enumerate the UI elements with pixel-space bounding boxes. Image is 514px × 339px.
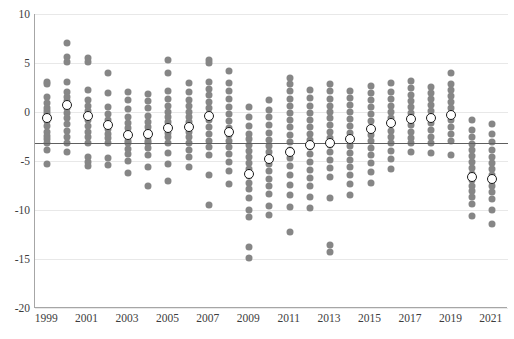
data-point	[286, 204, 293, 211]
data-point	[185, 89, 192, 96]
data-point	[165, 177, 172, 184]
mean-marker	[345, 134, 355, 144]
data-point	[306, 158, 313, 165]
data-point	[286, 131, 293, 138]
data-point	[387, 165, 394, 172]
data-point	[488, 120, 495, 127]
y-axis-tick-label: -10	[0, 204, 30, 216]
data-point	[205, 130, 212, 137]
data-point	[145, 152, 152, 159]
data-point	[185, 79, 192, 86]
y-axis-tick-label: -5	[0, 155, 30, 167]
data-point	[448, 69, 455, 76]
data-point	[387, 79, 394, 86]
data-point	[286, 171, 293, 178]
x-axis-tick-label: 2007	[196, 312, 219, 324]
data-point	[246, 244, 253, 251]
data-point	[124, 89, 131, 96]
data-point	[226, 88, 233, 95]
mean-marker	[123, 130, 133, 140]
x-axis-tick-label: 2015	[358, 312, 381, 324]
data-point	[266, 211, 273, 218]
data-point	[246, 195, 253, 202]
data-point	[145, 163, 152, 170]
data-point	[488, 220, 495, 227]
mean-marker	[406, 114, 416, 124]
data-point	[185, 154, 192, 161]
gridline	[35, 308, 508, 309]
x-axis-tick-label: 2005	[156, 312, 179, 324]
data-point	[347, 163, 354, 170]
mean-marker	[325, 138, 335, 148]
data-point	[286, 123, 293, 130]
data-point	[286, 181, 293, 188]
data-point	[327, 173, 334, 180]
data-point	[165, 57, 172, 64]
data-point	[44, 160, 51, 167]
data-point	[306, 151, 313, 158]
data-point	[306, 87, 313, 94]
data-point	[327, 249, 334, 256]
mean-marker	[305, 140, 315, 150]
data-point	[448, 130, 455, 137]
data-point	[347, 171, 354, 178]
data-point	[226, 96, 233, 103]
data-point	[145, 183, 152, 190]
x-axis-tick-label: 2011	[277, 312, 300, 324]
data-point	[367, 168, 374, 175]
data-point	[367, 159, 374, 166]
x-axis-tick-label: 2001	[75, 312, 98, 324]
data-point	[306, 194, 313, 201]
data-point	[428, 150, 435, 157]
data-point	[104, 69, 111, 76]
data-point	[226, 180, 233, 187]
data-point	[64, 40, 71, 47]
data-point	[306, 205, 313, 212]
mean-marker	[83, 111, 93, 121]
data-point	[347, 192, 354, 199]
data-point	[306, 95, 313, 102]
data-point	[306, 183, 313, 190]
data-point	[165, 160, 172, 167]
mean-marker	[366, 124, 376, 134]
data-point	[306, 174, 313, 181]
data-point	[124, 158, 131, 165]
mean-marker	[426, 113, 436, 123]
mean-marker	[42, 113, 52, 123]
data-point	[64, 149, 71, 156]
data-point	[205, 202, 212, 209]
x-axis-tick-label: 2021	[479, 312, 502, 324]
mean-marker	[446, 110, 456, 120]
gridline	[35, 14, 508, 15]
data-point	[165, 150, 172, 157]
data-point	[104, 90, 111, 97]
data-point	[84, 59, 91, 66]
mean-marker	[204, 111, 214, 121]
data-point	[468, 201, 475, 208]
mean-marker	[143, 129, 153, 139]
data-point	[246, 213, 253, 220]
data-point	[44, 80, 51, 87]
mean-marker	[386, 118, 396, 128]
gridline	[35, 63, 508, 64]
mean-marker	[184, 122, 194, 132]
data-point	[306, 166, 313, 173]
data-point	[286, 162, 293, 169]
data-point	[104, 161, 111, 168]
data-point	[124, 106, 131, 113]
mean-marker	[62, 100, 72, 110]
data-point	[488, 130, 495, 137]
mean-marker	[103, 120, 113, 130]
data-point	[226, 67, 233, 74]
data-point	[468, 116, 475, 123]
data-point	[246, 255, 253, 262]
mean-marker	[224, 127, 234, 137]
data-point	[387, 148, 394, 155]
data-point	[246, 186, 253, 193]
scatter-chart: 1050-5-10-15-201999200120032005200720092…	[0, 0, 514, 339]
data-point	[205, 78, 212, 85]
data-point	[185, 163, 192, 170]
data-point	[367, 179, 374, 186]
gridline	[35, 259, 508, 260]
data-point	[266, 167, 273, 174]
